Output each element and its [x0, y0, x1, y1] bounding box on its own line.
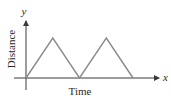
- x-axis-label: Time: [69, 85, 92, 97]
- distance-time-graph: y x Distance Time: [0, 0, 171, 104]
- distance-line: [26, 38, 133, 78]
- x-axis-symbol: x: [162, 71, 168, 83]
- y-axis-symbol: y: [21, 5, 27, 17]
- y-axis-label: Distance: [5, 30, 17, 69]
